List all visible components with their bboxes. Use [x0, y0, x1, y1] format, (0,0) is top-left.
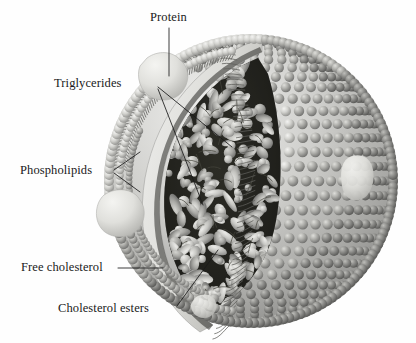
lipoprotein-diagram: Protein Triglycerides Phospholipids Free…: [0, 0, 416, 343]
label-free-cholesterol: Free cholesterol: [21, 261, 103, 274]
label-phospholipids: Phospholipids: [20, 164, 92, 177]
label-protein: Protein: [150, 11, 187, 24]
label-cholesterol-esters: Cholesterol esters: [58, 302, 149, 315]
label-triglycerides: Triglycerides: [54, 77, 122, 90]
embedded-apolipoprotein-left: [96, 190, 144, 237]
